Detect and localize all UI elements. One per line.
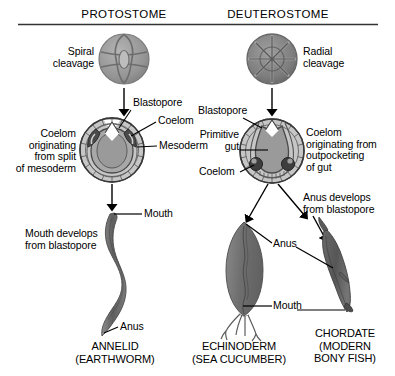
deuterostome-embryo-section bbox=[240, 119, 304, 183]
label-coelom-left: Coelom bbox=[158, 115, 194, 127]
label-mouth-left: Mouth bbox=[144, 208, 173, 220]
header-protostome: PROTOSTOME bbox=[48, 8, 200, 20]
radial-cleavage-icon bbox=[247, 34, 297, 84]
protostome-deuterostome-diagram: PROTOSTOME DEUTEROSTOME Spiral cleavage … bbox=[0, 0, 395, 376]
label-blastopore-right: Blastopore bbox=[198, 105, 247, 117]
label-anus-right: Anus bbox=[273, 238, 297, 250]
label-spiral-cleavage: Spiral cleavage bbox=[24, 46, 94, 69]
caption-annelid: ANNELID (EARTHWORM) bbox=[45, 340, 185, 365]
label-mouth-right: Mouth bbox=[273, 300, 302, 312]
label-primitive-gut: Primitive gut bbox=[186, 129, 239, 152]
header-deuterostome: DEUTEROSTOME bbox=[196, 8, 360, 20]
label-anus-origin: Anus develops from blastopore bbox=[303, 192, 395, 215]
label-coelom-right: Coelom bbox=[199, 166, 235, 178]
label-radial-cleavage: Radial cleavage bbox=[303, 46, 377, 69]
protostome-embryo-section bbox=[80, 118, 144, 182]
caption-echinoderm: ECHINODERM (SEA CUCUMBER) bbox=[180, 340, 298, 365]
label-blastopore-left: Blastopore bbox=[133, 97, 182, 109]
bony-fish-illustration bbox=[319, 217, 353, 312]
label-anus-left: Anus bbox=[120, 321, 144, 333]
sea-cucumber-illustration bbox=[221, 222, 263, 341]
caption-chordate: CHORDATE (MODERN BONY FISH) bbox=[300, 327, 390, 365]
label-coelom-origin-right: Coelom originating from outpocketing of … bbox=[306, 127, 394, 173]
label-coelom-origin-left: Coelom originating from split of mesoder… bbox=[2, 128, 76, 174]
label-mouth-origin: Mouth develops from blastopore bbox=[25, 228, 120, 251]
spiral-cleavage-icon bbox=[99, 34, 149, 84]
